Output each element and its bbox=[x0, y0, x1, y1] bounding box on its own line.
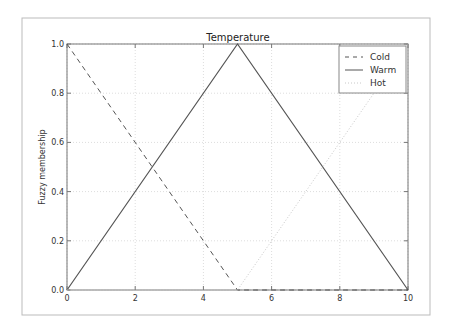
x-tick-label: 8 bbox=[337, 294, 342, 303]
chart: 0246810 0.00.20.40.60.81.0 Temperature F… bbox=[0, 0, 451, 333]
chart-title: Temperature bbox=[205, 32, 269, 43]
x-tick-label: 6 bbox=[269, 294, 274, 303]
y-tick-label: 1.0 bbox=[51, 40, 64, 49]
y-tick-label: 0.8 bbox=[51, 89, 64, 98]
y-axis-label: Fuzzy membership bbox=[38, 129, 47, 204]
y-tick-label: 0.2 bbox=[51, 237, 64, 246]
y-tick-label: 0.4 bbox=[51, 188, 64, 197]
y-tick-label: 0.0 bbox=[51, 286, 64, 295]
y-tick-label: 0.6 bbox=[51, 138, 64, 147]
x-tick-label: 10 bbox=[403, 294, 413, 303]
x-tick-label: 4 bbox=[201, 294, 206, 303]
x-tick-label: 0 bbox=[64, 294, 69, 303]
legend-cold-label: Cold bbox=[370, 52, 390, 62]
legend-warm-label: Warm bbox=[370, 65, 396, 75]
legend-hot-label: Hot bbox=[370, 78, 386, 88]
x-tick-label: 2 bbox=[133, 294, 138, 303]
legend: Cold Warm Hot bbox=[339, 46, 406, 93]
